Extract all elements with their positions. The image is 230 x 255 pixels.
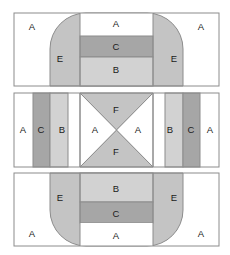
top-region-C <box>80 36 153 57</box>
bottom-panel: E E B C A A A <box>14 173 219 246</box>
bottom-region-C <box>80 202 153 223</box>
top-region-A-center <box>80 13 153 36</box>
carton-net-diagram: A A A E E C B <box>0 0 230 255</box>
middle-region-B-right <box>165 93 183 167</box>
middle-region-C-right <box>183 93 200 167</box>
middle-region-B-left <box>50 93 68 167</box>
middle-panel: A C B A F F A B C A <box>14 93 219 167</box>
middle-region-C-left <box>33 93 50 167</box>
top-panel: A A A E E C B <box>14 13 219 86</box>
top-region-B <box>80 57 153 86</box>
bottom-region-B <box>80 173 153 202</box>
bottom-region-A-center <box>80 223 153 246</box>
net-svg-canvas: A A A E E C B <box>0 0 230 255</box>
